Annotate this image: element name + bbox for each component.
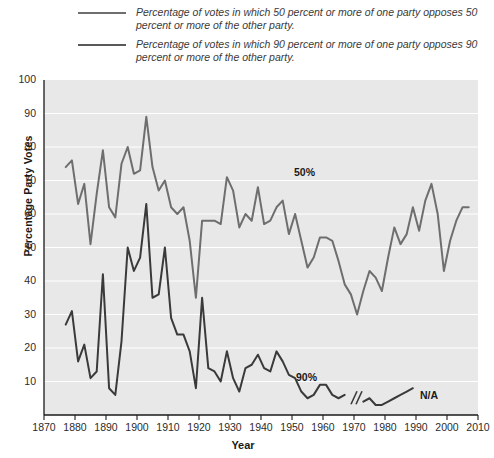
y-tick-label: 100 <box>2 73 36 85</box>
y-tick-label: 70 <box>2 174 36 186</box>
y-tick-label: 60 <box>2 207 36 219</box>
x-axis-title: Year <box>0 439 486 451</box>
inline-label-50: 50% <box>294 166 315 178</box>
legend-line-swatch-50-icon <box>78 6 126 19</box>
legend-label-90: Percentage of votes in which 90 percent … <box>136 38 478 63</box>
inline-label-na: N/A <box>420 389 438 401</box>
y-tick-label: 10 <box>2 375 36 387</box>
y-tick-label: 90 <box>2 107 36 119</box>
legend-line-swatch-90-icon <box>78 38 126 51</box>
chart-legend: Percentage of votes in which 50 percent … <box>78 6 478 70</box>
y-tick-label: 20 <box>2 341 36 353</box>
legend-item-50: Percentage of votes in which 50 percent … <box>78 6 478 31</box>
y-tick-label: 40 <box>2 274 36 286</box>
x-tick-label: 2010 <box>458 421 494 433</box>
y-tick-label: 30 <box>2 308 36 320</box>
y-tick-label: 50 <box>2 241 36 253</box>
y-tick-label: 80 <box>2 140 36 152</box>
legend-item-90: Percentage of votes in which 90 percent … <box>78 38 478 63</box>
inline-label-90: 90% <box>296 371 317 383</box>
legend-label-50: Percentage of votes in which 50 percent … <box>136 6 478 31</box>
